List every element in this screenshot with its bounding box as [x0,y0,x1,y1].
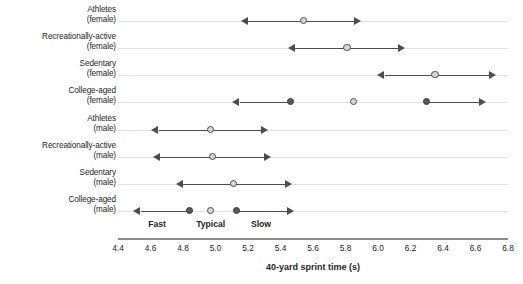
data-point-light [207,126,214,133]
category-label-line1: Recreationally-active [42,32,116,41]
x-tick-label: 5.0 [210,243,222,253]
arrowhead-left-icon [288,44,295,52]
arrowhead-left-icon [241,17,248,25]
x-tick-label: 6.4 [437,243,449,253]
arrowhead-right-icon [285,180,292,188]
category-label-line1: College-aged [68,195,116,204]
data-point-dark [233,207,240,214]
category-label-line1: Athletes [87,5,116,14]
arrowhead-right-icon [287,207,294,215]
x-tick-label: 5.6 [307,243,319,253]
arrowhead-left-icon [151,126,158,134]
data-point-light [431,71,438,78]
arrowhead-right-icon [479,98,486,106]
interval-marker [0,179,523,191]
data-point-light [343,44,350,51]
category-label-line1: Sedentary [80,59,116,68]
x-tick-label: 6.6 [470,243,482,253]
zone-label-slow: Slow [251,219,271,229]
sprint-time-chart: 40-yard sprint time (s) Athletes(female)… [0,0,523,284]
interval-marker [0,43,523,55]
interval-marker [0,70,523,82]
zone-label-typical: Typical [196,219,225,229]
x-tick-label: 6.0 [372,243,384,253]
interval-marker [0,16,523,28]
arrowhead-right-icon [261,126,268,134]
x-axis-line [118,238,508,240]
data-point-light [300,17,307,24]
arrowhead-left-icon [153,153,160,161]
x-tick-label: 6.2 [405,243,417,253]
interval-marker [0,125,523,137]
arrowhead-right-icon [398,44,405,52]
category-label-line1: College-aged [68,86,116,95]
interval-line [237,211,287,212]
x-tick-label: 4.4 [112,243,124,253]
category-label-line1: Sedentary [80,168,116,177]
data-point-light [209,153,216,160]
x-tick-label: 4.6 [145,243,157,253]
interval-marker [0,97,523,109]
arrowhead-left-icon [176,180,183,188]
interval-marker [0,206,523,218]
interval-marker [0,152,523,164]
zone-label-fast: Fast [148,219,166,229]
x-tick-label: 6.8 [502,243,514,253]
arrowhead-right-icon [354,17,361,25]
interval-line [427,102,479,103]
x-tick-label: 5.8 [340,243,352,253]
arrowhead-right-icon [489,71,496,79]
data-point-light [230,180,237,187]
category-label-line1: Athletes [87,114,116,123]
arrowhead-left-icon [377,71,384,79]
x-axis-title: 40-yard sprint time (s) [118,262,508,272]
arrowhead-right-icon [264,153,271,161]
x-tick-label: 5.4 [275,243,287,253]
category-label-line1: Recreationally-active [42,141,116,150]
x-tick-label: 4.8 [177,243,189,253]
x-tick-label: 5.2 [242,243,254,253]
data-point-dark [423,98,430,105]
